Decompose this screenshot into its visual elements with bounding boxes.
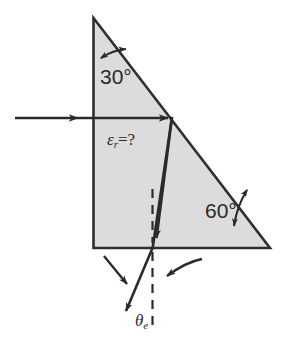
ray-diagram-svg <box>0 0 284 344</box>
permittivity-value: ? <box>128 130 136 149</box>
exit-angle-subscript: e <box>143 319 148 331</box>
permittivity-label: εr=? <box>107 131 135 150</box>
angle-label-60: 60° <box>205 200 237 221</box>
exit-ray <box>126 248 153 311</box>
angle-label-30: 30° <box>100 66 132 87</box>
figure-canvas: 30° 60° εr=? θe <box>0 0 284 344</box>
angle-pointer-left-arrow <box>104 256 127 284</box>
angle-pointer-right-arrow <box>167 259 202 276</box>
permittivity-symbol: ε <box>107 130 114 149</box>
permittivity-equals: = <box>118 130 128 149</box>
exit-angle-label: θe <box>135 312 148 331</box>
